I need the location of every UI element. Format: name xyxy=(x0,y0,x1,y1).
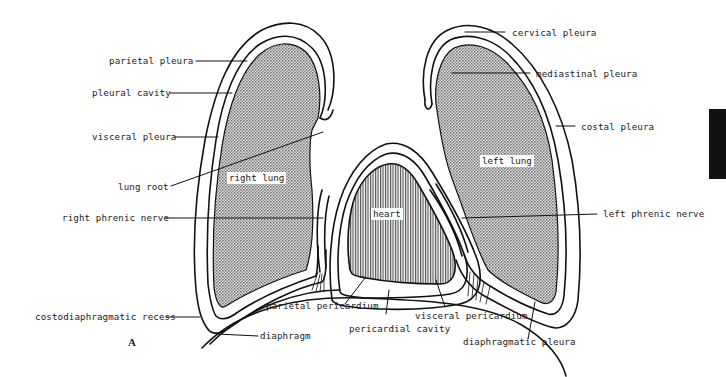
label-diaphragmatic-pleura: diaphragmatic pleura xyxy=(463,336,576,347)
label-right-phrenic-nerve: right phrenic nerve xyxy=(62,212,169,223)
label-pericardial-cavity: pericardial cavity xyxy=(349,323,450,334)
label-costal-pleura: costal pleura xyxy=(581,121,654,132)
thorax-cross-section-diagram: right lung left lung heart parietal pleu… xyxy=(0,0,726,377)
label-costodiaphragmatic-recess: costodiaphragmatic recess xyxy=(35,311,176,322)
label-diaphragm: diaphragm xyxy=(260,330,311,341)
left-lung-label: left lung xyxy=(480,155,534,167)
label-cervical-pleura: cervical pleura xyxy=(512,27,596,38)
label-visceral-pleura: visceral pleura xyxy=(92,131,176,142)
label-parietal-pericardium: parietal pericardium xyxy=(266,300,379,311)
label-mediastinal-pleura: mediastinal pleura xyxy=(536,68,637,79)
heart-label: heart xyxy=(371,208,403,220)
label-lung-root: lung root xyxy=(118,181,169,192)
label-left-phrenic-nerve: left phrenic nerve xyxy=(603,208,704,219)
right-lung-label: right lung xyxy=(227,172,286,184)
panel-letter: A xyxy=(128,336,136,348)
label-parietal-pleura: parietal pleura xyxy=(109,55,193,66)
heart-fill xyxy=(348,164,455,284)
page-edge-tab xyxy=(709,109,726,179)
label-visceral-pericardium: visceral pericardium xyxy=(415,310,528,321)
label-pleural-cavity: pleural cavity xyxy=(92,87,171,98)
